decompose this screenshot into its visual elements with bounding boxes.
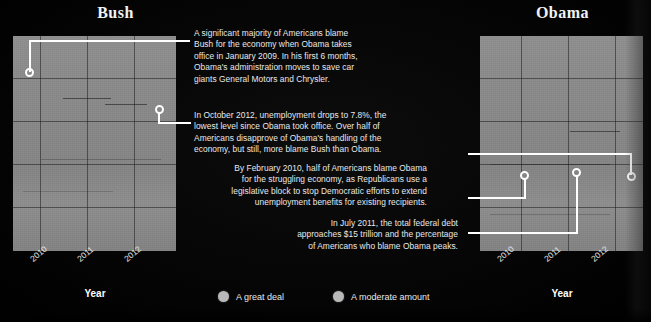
plot-area-obama — [480, 36, 643, 251]
annotation-text-1: A significant majority of Americans blam… — [194, 28, 360, 85]
panel-title-obama: Obama — [505, 4, 620, 22]
annotation-marker-note-3[interactable] — [520, 171, 529, 180]
gridline-h — [13, 164, 176, 165]
bottom-edge-vignette — [0, 308, 651, 322]
gridline-v — [40, 36, 41, 251]
x-axis-title-left: Year — [55, 288, 135, 299]
data-trace-moderate — [23, 191, 113, 192]
data-trace-moderate — [490, 214, 610, 215]
annotation-text-3: By February 2010, half of Americans blam… — [228, 163, 427, 209]
leader-line-note-4 — [576, 176, 578, 233]
panel-title-bush: Bush — [58, 4, 173, 22]
annotation-marker-note-2b[interactable] — [627, 172, 636, 181]
plot-area-bush — [13, 36, 176, 251]
gridline-v — [615, 36, 616, 251]
gridline-h — [480, 121, 643, 122]
gridline-h — [13, 121, 176, 122]
leader-line-note-1 — [30, 40, 190, 42]
annotation-text-4: In July 2011, the total federal debt app… — [296, 218, 458, 252]
gridline-v — [87, 36, 88, 251]
x-axis-title-right: Year — [522, 288, 602, 299]
annotation-text-2: In October 2012, unemployment drops to 7… — [194, 110, 394, 156]
legend: A great deal A moderate amount — [218, 291, 430, 302]
legend-swatch-icon — [218, 291, 229, 302]
gridline-v — [568, 36, 569, 251]
annotation-marker-note-4[interactable] — [572, 168, 581, 177]
legend-label-moderate-amount: A moderate amount — [351, 292, 430, 302]
legend-swatch-icon — [333, 291, 344, 302]
plot-shading-obama — [480, 36, 643, 251]
legend-label-great-deal: A great deal — [236, 292, 284, 302]
gridline-h — [13, 207, 176, 208]
leader-line-note-3 — [468, 197, 526, 199]
infographic-canvas: Bush 2010 2011 2012 Year A significant m… — [0, 0, 651, 322]
data-trace-great-deal — [105, 104, 147, 105]
legend-item-moderate-amount[interactable]: A moderate amount — [333, 291, 430, 302]
data-trace-moderate — [490, 164, 610, 165]
data-trace-moderate — [41, 159, 161, 160]
leader-line-note-4 — [468, 232, 578, 234]
leader-line-note-3 — [524, 178, 526, 198]
data-trace-great-deal — [570, 131, 620, 132]
gridline-h — [13, 78, 176, 79]
leader-line-note-2 — [158, 122, 191, 124]
gridline-v — [134, 36, 135, 251]
gridline-h — [480, 78, 643, 79]
annotation-marker-note-1[interactable] — [25, 68, 34, 77]
legend-item-great-deal[interactable]: A great deal — [218, 291, 284, 302]
gridline-h — [480, 207, 643, 208]
leader-line-note-2b — [468, 153, 632, 155]
gridline-v — [521, 36, 522, 251]
plot-shading-bush — [13, 36, 176, 251]
data-trace-great-deal — [63, 98, 111, 99]
